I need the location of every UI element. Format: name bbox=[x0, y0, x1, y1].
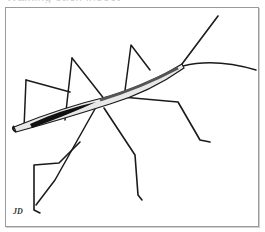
stick-insect-illustration bbox=[0, 0, 265, 232]
artist-signature: JD bbox=[13, 207, 23, 216]
